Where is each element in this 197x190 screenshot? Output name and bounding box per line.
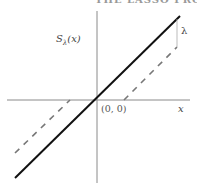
soft-threshold-diagram bbox=[0, 0, 197, 190]
function-symbol: S bbox=[56, 33, 63, 44]
lambda-label: λ bbox=[181, 26, 187, 36]
lower-threshold-branch bbox=[15, 100, 70, 153]
function-arg: (x) bbox=[67, 33, 80, 44]
x-axis-label: x bbox=[178, 104, 184, 114]
upper-threshold-branch bbox=[124, 47, 177, 100]
function-label: Sλ(x) bbox=[56, 34, 81, 47]
origin-label: (0, 0) bbox=[101, 104, 127, 114]
